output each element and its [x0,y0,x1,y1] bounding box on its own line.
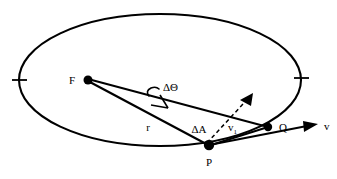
point-p-dot [204,140,214,150]
perpendicular-tick-base [151,105,168,108]
label-velocity-component: v1 [228,121,238,136]
label-focus: F [69,74,75,86]
orbit-ellipse [19,14,301,146]
label-point-q: Q [279,121,287,133]
velocity-vector-shaft [209,126,307,145]
focus-point-dot [84,76,93,85]
label-radius: r [146,121,150,133]
label-velocity: v [324,120,330,132]
label-point-p: P [206,156,212,168]
orbit-figure: F ΔΘ r ΔA v1 Q v P [0,0,337,179]
kepler-second-law-diagram: F ΔΘ r ΔA v1 Q v P [0,0,337,179]
label-velocity-component-subscript: 1 [234,128,238,136]
point-q-dot [264,123,272,131]
label-delta-theta: ΔΘ [163,81,178,93]
label-delta-area: ΔA [191,123,206,135]
velocity-arrowhead-icon [303,121,318,132]
radius-line-fp [88,81,210,146]
